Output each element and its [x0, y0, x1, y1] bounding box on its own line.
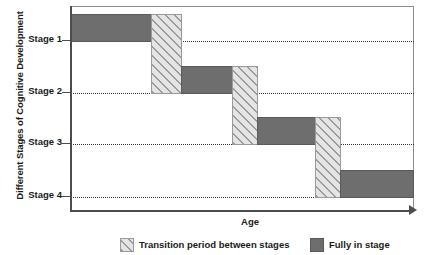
legend-label-transition: Transition period between stages	[139, 238, 289, 252]
y-tick-label-stage-3: Stage 3	[10, 136, 62, 147]
bar-fully-in-stage-2	[181, 66, 233, 94]
y-tick-connector-stage-2	[62, 92, 70, 93]
x-axis-line	[70, 210, 411, 212]
bar-fully-in-stage-1	[70, 14, 152, 42]
x-axis-arrow-icon	[409, 205, 417, 215]
y-tick-label-stage-1: Stage 1	[10, 33, 62, 44]
y-tick-connector-stage-1	[62, 40, 70, 41]
bar-transition-stage-2-to-3	[232, 66, 258, 145]
bar-fully-in-stage-3	[257, 117, 316, 145]
chart-legend: Transition period between stages Fully i…	[0, 238, 427, 255]
legend-item-transition: Transition period between stages	[120, 238, 289, 252]
legend-item-fully-in-stage: Fully in stage	[310, 238, 390, 252]
bar-fully-in-stage-4	[340, 170, 414, 198]
bar-transition-stage-1-to-2	[151, 14, 182, 94]
legend-swatch-solid-icon	[310, 238, 324, 252]
y-tick-connector-stage-3	[62, 143, 70, 144]
y-tick-label-stage-4: Stage 4	[10, 189, 62, 200]
plot-area	[70, 6, 414, 210]
legend-swatch-hatched-icon	[120, 238, 134, 252]
legend-label-fully-in-stage: Fully in stage	[329, 238, 390, 252]
y-tick-connector-stage-4	[62, 196, 70, 197]
x-axis-title: Age	[180, 216, 320, 227]
bar-transition-stage-3-to-4	[315, 117, 341, 198]
cognitive-development-step-chart: Different Stages of Cognitive Developmen…	[0, 0, 427, 255]
y-tick-label-stage-2: Stage 2	[10, 85, 62, 96]
y-axis-line	[70, 6, 72, 210]
y-axis-tick-labels: Stage 1 Stage 2 Stage 3 Stage 4	[10, 0, 62, 215]
